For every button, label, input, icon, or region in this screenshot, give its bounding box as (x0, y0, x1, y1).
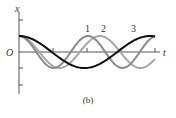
curve-2-label: 2 (101, 23, 106, 34)
curve-1-label: 1 (85, 23, 90, 34)
x-axis-label: x (14, 3, 20, 14)
curve-3-label: 3 (131, 23, 136, 34)
figure-caption: (b) (0, 95, 176, 105)
origin-label: O (6, 47, 13, 58)
t-axis-label: t (163, 47, 166, 58)
